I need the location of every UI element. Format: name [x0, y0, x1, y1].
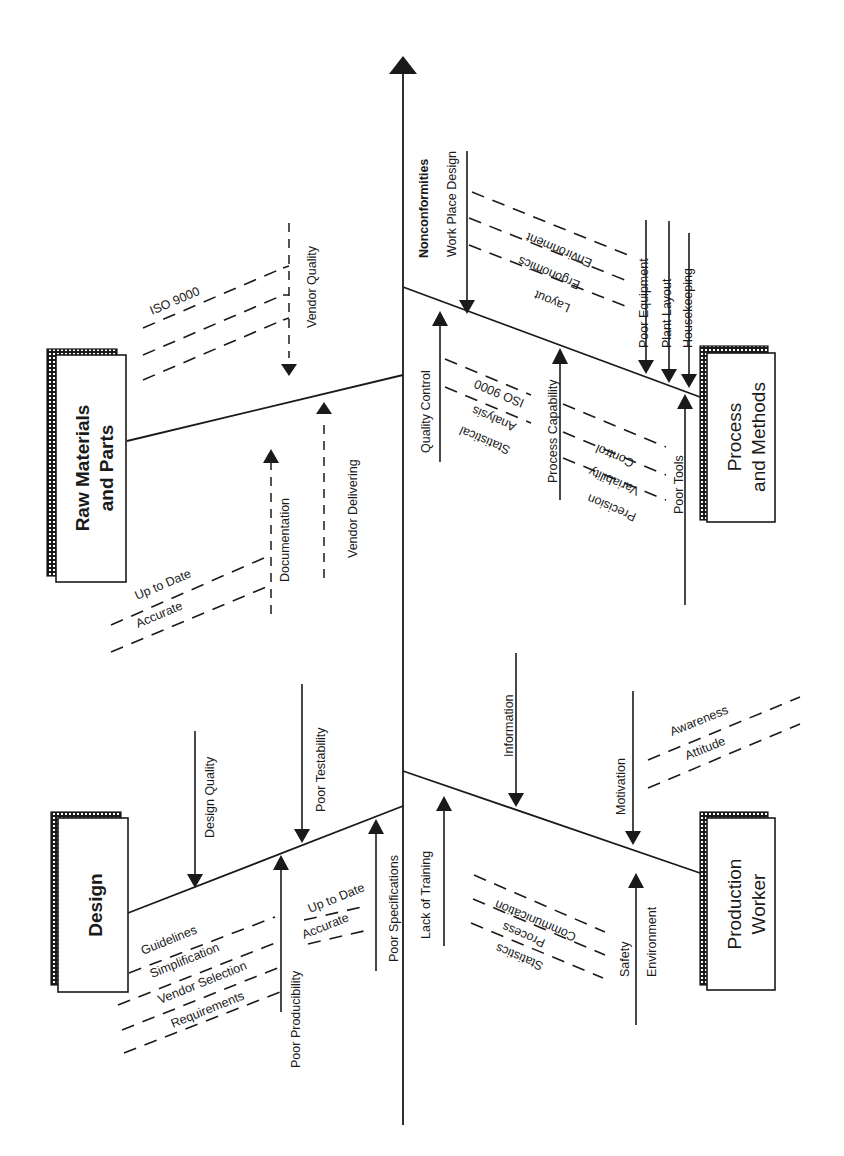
cause-design-quality: Design Quality: [203, 756, 217, 838]
design-title: Design: [85, 873, 106, 936]
cause-plant-layout: Plant Layout: [660, 278, 674, 348]
cause-attitude: Attitude: [683, 734, 728, 763]
process-title-2: and Methods: [748, 382, 769, 492]
poor-testability-arrowhead-icon: [294, 829, 310, 843]
cause-documentation: Documentation: [278, 498, 292, 582]
cause-poor-testability: Poor Testability: [314, 727, 328, 812]
poor-specifications-arrowhead-icon: [368, 819, 384, 834]
lack-of-training-arrowhead-icon: [436, 796, 452, 811]
production-title-2: Worker: [748, 873, 769, 935]
poor-tools-arrowhead-icon: [677, 394, 693, 409]
cause-lack-of-training: Lack of Training: [419, 851, 433, 939]
raw-materials-title-2: and Parts: [96, 425, 117, 512]
fishbone-diagram: Nonconformities Raw Materials and Parts …: [0, 0, 844, 1156]
cause-information: Information: [502, 694, 516, 757]
cause-layout: Layout: [532, 287, 573, 315]
poor-producibility-arrowhead-icon: [273, 855, 289, 870]
raw-materials-title-1: Raw Materials: [72, 405, 93, 532]
cause-motivation: Motivation: [614, 758, 628, 815]
safety-arrowhead-icon: [628, 873, 644, 888]
cause-accurate-design: Accurate: [300, 910, 351, 941]
cause-work-place-design: Work Place Design: [445, 151, 459, 257]
cause-poor-specifications: Poor Specifications: [387, 855, 401, 962]
category-raw-materials: Raw Materials and Parts Vendor Quality I…: [47, 223, 403, 652]
information-arrowhead-icon: [508, 793, 524, 807]
design-bone: [128, 806, 403, 913]
cause-poor-producibility: Poor Producibility: [289, 970, 303, 1068]
process-title-1: Process: [724, 403, 745, 472]
cause-iso9000-raw: ISO 9000: [148, 284, 202, 318]
effect-label: Nonconformities: [417, 159, 431, 258]
housekeeping-arrowhead-icon: [681, 374, 697, 388]
cause-poor-tools: Poor Tools: [672, 455, 686, 514]
spine: [389, 56, 417, 1125]
spine-arrowhead-icon: [389, 56, 417, 74]
plant-layout-arrowhead-icon: [661, 369, 677, 383]
design-quality-arrowhead-icon: [187, 874, 203, 888]
motivation-arrowhead-icon: [625, 831, 641, 845]
cause-vendor-delivering: Vendor Delivering: [346, 459, 360, 558]
cause-up-to-date-raw: Up to Date: [133, 567, 194, 603]
cause-quality-control: Quality Control: [419, 370, 433, 453]
cause-process-capability: Process Capability: [546, 379, 560, 483]
documentation-arrowhead-icon: [263, 449, 279, 463]
category-process-methods: Process and Methods Work Place Design En…: [403, 151, 775, 605]
cause-vendor-quality: Vendor Quality: [305, 245, 319, 328]
production-bone: [403, 771, 700, 873]
vendor-delivering-arrowhead-icon: [316, 402, 332, 414]
production-title-1: Production: [724, 859, 745, 950]
category-design: Design Design Quality Poor Testability G…: [51, 684, 403, 1068]
cause-safety: Safety: [618, 941, 632, 977]
category-production-worker: Production Worker Information Motivation…: [403, 653, 800, 1025]
vendor-quality-arrowhead-icon: [281, 364, 297, 376]
process-capability-arrowhead-icon: [552, 348, 568, 364]
cause-poor-equipment: Poor Equipment: [637, 258, 651, 348]
cause-control: Control: [594, 441, 637, 470]
quality-control-arrowhead-icon: [432, 311, 448, 326]
cause-environment-worker: Environment: [645, 906, 659, 977]
cause-iso9000-process: ISO 9000: [472, 377, 526, 411]
cause-housekeeping: Housekeeping: [681, 268, 695, 348]
raw-materials-bone: [127, 375, 403, 441]
cause-awareness: Awareness: [668, 703, 730, 739]
cause-up-to-date-design: Up to Date: [306, 880, 367, 915]
poor-equipment-arrowhead-icon: [638, 360, 654, 374]
